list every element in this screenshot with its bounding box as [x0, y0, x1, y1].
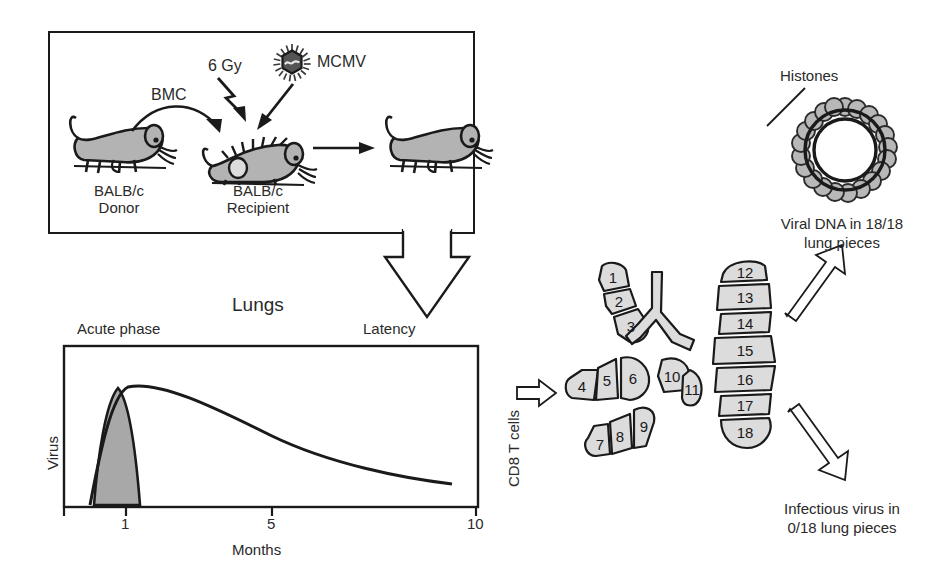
- lung-piece-label: 9: [640, 418, 648, 435]
- outcome-mouse-icon: [378, 102, 494, 174]
- dna-result-line1: Viral DNA in 18/18: [742, 215, 931, 234]
- chart-to-lungs-arrow-icon: [517, 380, 557, 406]
- lung-piece-label: 4: [578, 378, 586, 395]
- dose-label: 6 Gy: [208, 57, 242, 75]
- cd8-label: CD8 T cells: [505, 410, 522, 487]
- mcmv-label: MCMV: [317, 53, 366, 71]
- box-to-chart-arrow-icon: [379, 229, 475, 321]
- recipient-mouse-icon: [198, 124, 318, 186]
- lung-piece-label: 11: [684, 381, 700, 398]
- recipient-label-line2: Recipient: [198, 199, 318, 216]
- lung-pieces-column: 12 13 14 15 16 17 18: [705, 256, 789, 452]
- xtick-label-1: 1: [121, 515, 129, 532]
- xtick-label-5: 5: [267, 515, 275, 532]
- virus-chart: [62, 344, 480, 519]
- virus-result-text: Infectious virus in 0/18 lung pieces: [742, 500, 931, 538]
- lung-piece-label: 5: [603, 372, 611, 389]
- lung-piece-label: 7: [596, 436, 604, 453]
- xtick-label-10: 10: [467, 515, 484, 532]
- lung-piece-label: 12: [737, 264, 754, 281]
- lung-piece-label: 17: [737, 397, 754, 414]
- lung-piece-label: 1: [609, 269, 617, 286]
- lung-piece-label: 3: [627, 318, 635, 335]
- lung-piece-label: 8: [616, 428, 624, 445]
- donor-label-line1: BALB/c: [61, 182, 177, 199]
- chart-ylabel: Virus: [44, 436, 61, 470]
- donor-label: BALB/c Donor: [61, 182, 177, 217]
- lung-piece-label: 18: [737, 424, 754, 441]
- histones-label: Histones: [780, 67, 838, 84]
- virus-particle-icon: [272, 43, 312, 83]
- latency-annotation: Latency: [363, 320, 416, 337]
- virus-result-line2: 0/18 lung pieces: [742, 519, 931, 538]
- lung-piece-label: 10: [664, 368, 681, 385]
- recipient-label-line1: BALB/c: [198, 182, 318, 199]
- lung-piece-label: 6: [629, 370, 637, 387]
- lung-piece-label: 15: [737, 342, 754, 359]
- acute-phase-annotation: Acute phase: [77, 320, 160, 337]
- lung-piece-label: 14: [737, 315, 754, 332]
- progression-arrow-icon: [313, 140, 377, 156]
- chart-xlabel: Months: [232, 541, 281, 558]
- virus-result-line1: Infectious virus in: [742, 500, 931, 519]
- lungs-to-virus-arrow-icon: [786, 404, 858, 484]
- donor-label-line2: Donor: [61, 199, 177, 216]
- lung-pieces-cluster: 1 2 3 4 5 6 7 8 9 10 11: [552, 258, 707, 463]
- nucleosome-ring-icon: [791, 97, 899, 205]
- dna-result-line2: lung pieces: [742, 234, 931, 253]
- lung-piece-label: 13: [737, 289, 754, 306]
- lung-piece-label: 16: [737, 371, 754, 388]
- recipient-label: BALB/c Recipient: [198, 182, 318, 217]
- lungs-to-dna-arrow-icon: [783, 243, 855, 323]
- dna-result-text: Viral DNA in 18/18 lung pieces: [742, 215, 931, 253]
- bmc-label: BMC: [151, 86, 187, 104]
- lung-piece-label: 2: [615, 293, 623, 310]
- chart-title: Lungs: [232, 294, 284, 316]
